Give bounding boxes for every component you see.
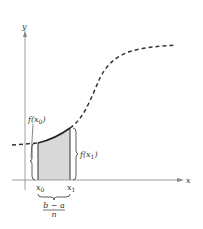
x-axis-label: x (186, 176, 191, 185)
f-x1-brace (73, 128, 78, 180)
riemann-sum-diagram: y x f(x0) f(x1) x0 x1 b − a n (0, 0, 203, 229)
y-axis-arrow-icon (23, 30, 27, 37)
f-x0-label: f(x0) (27, 115, 46, 125)
f-x1-label: f(x1) (79, 150, 98, 160)
shaded-area (38, 128, 70, 180)
width-brace (38, 194, 70, 200)
x-axis-arrow-icon (177, 178, 184, 182)
width-denominator: n (51, 210, 56, 219)
x0-label: x0 (36, 183, 45, 193)
x1-label: x1 (67, 183, 75, 193)
curve-dashed-right (70, 45, 176, 128)
width-numerator: b − a (43, 201, 65, 210)
y-axis-label: y (21, 22, 27, 31)
f-x0-brace (30, 143, 35, 180)
